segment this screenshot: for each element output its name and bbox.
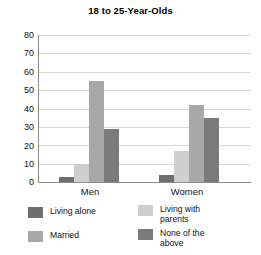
bars-layer — [39, 35, 251, 182]
bar-chart: 18 to 25-Year-Olds 80 70 60 50 40 30 20 … — [0, 0, 261, 255]
chart-title: 18 to 25-Year-Olds — [0, 5, 261, 16]
bar-men-2 — [89, 81, 104, 182]
y-tick-10: 10 — [4, 160, 34, 169]
legend-swatch-married — [28, 231, 43, 242]
legend-label-married: Married — [50, 230, 79, 240]
y-axis-tick-labels: 80 70 60 50 40 30 20 10 0 — [0, 35, 34, 183]
legend-item-living-with-parents[interactable]: Living with parents — [138, 204, 200, 224]
y-tick-30: 30 — [4, 123, 34, 132]
bar-women-0 — [159, 175, 174, 182]
legend-swatch-living-with-parents — [138, 205, 153, 216]
bar-men-0 — [59, 177, 74, 183]
bar-women-2 — [189, 105, 204, 182]
legend-item-none-of-the-above[interactable]: None of the above — [138, 228, 204, 248]
bar-women-3 — [204, 118, 219, 182]
legend-label-none-of-the-above: None of the above — [160, 228, 204, 248]
chart-legend: Living alone Married Living with parents… — [28, 206, 258, 252]
y-tick-80: 80 — [4, 31, 34, 40]
legend-label-living-alone: Living alone — [50, 206, 96, 216]
x-axis-line — [38, 182, 251, 183]
x-label-women: Women — [152, 186, 222, 197]
plot-area — [38, 35, 251, 183]
y-tick-40: 40 — [4, 105, 34, 114]
legend-swatch-none-of-the-above — [138, 229, 153, 240]
x-label-men: Men — [55, 186, 125, 197]
legend-swatch-living-alone — [28, 207, 43, 218]
bar-women-1 — [174, 151, 189, 182]
y-tick-50: 50 — [4, 86, 34, 95]
y-tick-60: 60 — [4, 68, 34, 77]
legend-label-living-with-parents: Living with parents — [160, 204, 200, 224]
y-tick-70: 70 — [4, 49, 34, 58]
bar-men-1 — [74, 164, 89, 182]
legend-item-married[interactable]: Married — [28, 230, 79, 242]
y-tick-0: 0 — [4, 178, 34, 187]
bar-men-3 — [104, 129, 119, 182]
y-tick-20: 20 — [4, 142, 34, 151]
legend-item-living-alone[interactable]: Living alone — [28, 206, 96, 218]
